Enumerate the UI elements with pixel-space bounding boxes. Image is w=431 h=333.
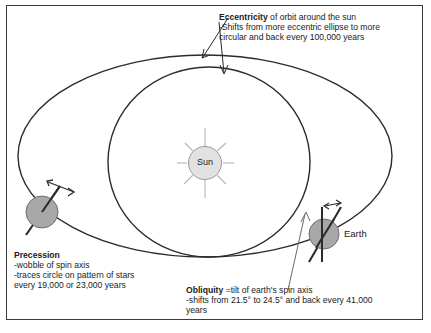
precession-annotation: Precession -wobble of spin axis -traces … [14, 250, 134, 291]
precession-line-2: -wobble of spin axis [14, 260, 134, 270]
earth-label: Earth [344, 228, 367, 239]
eccentricity-line-3: circular and back every 100,000 years [219, 32, 380, 42]
obliquity-line-3: years [186, 305, 373, 315]
eccentricity-annotation: Eccentricity of orbit around the sun -Sh… [219, 12, 380, 42]
obliquity-tilt-arrow-icon [324, 200, 341, 209]
sun-label: Sun [190, 157, 220, 167]
eccentricity-line-2: -Shifts from more eccentric ellipse to m… [219, 22, 380, 32]
precession-line-3: -traces circle on pattern of stars [14, 270, 134, 280]
precession-line-4: every 19,000 or 23,000 years [14, 280, 134, 290]
eccentricity-heading-rest: of orbit around the sun [268, 12, 356, 22]
obliquity-line-2: -shifts from 21.5° to 24.5° and back eve… [186, 295, 373, 305]
obliquity-annotation: Obliquity =tilt of earth's spin axis -sh… [186, 285, 373, 315]
eccentricity-heading: Eccentricity [219, 12, 268, 22]
obliquity-heading-rest: =tilt of earth's spin axis [223, 285, 312, 295]
precession-heading: Precession [14, 250, 134, 260]
eccentricity-heading-line: Eccentricity of orbit around the sun [219, 12, 380, 22]
obliquity-heading: Obliquity [186, 285, 223, 295]
precession-wobble-arrow-icon [47, 180, 74, 196]
obliquity-leader-line [288, 212, 310, 290]
obliquity-heading-line: Obliquity =tilt of earth's spin axis [186, 285, 373, 295]
diagram-canvas: Sun Earth Eccentricity of orbit around t… [0, 0, 431, 333]
